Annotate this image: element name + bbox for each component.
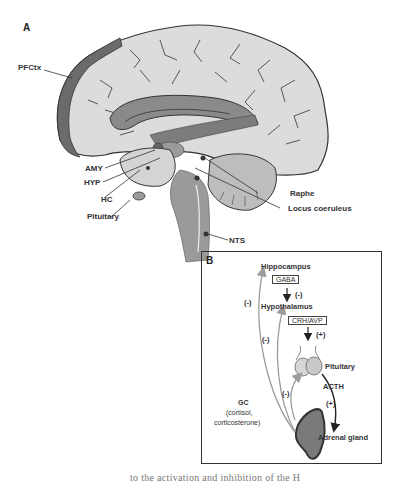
node-pituitary: Pituitary bbox=[325, 362, 355, 371]
label-gc-corticosterone: corticosterone) bbox=[214, 419, 260, 426]
node-crh-avp: CRH/AVP bbox=[288, 316, 327, 325]
sign-feedback-pituitary: (-) bbox=[282, 389, 290, 398]
sign-feedback-hippocampus: (-) bbox=[244, 298, 252, 307]
node-adrenal-gland: Adrenal gland bbox=[318, 433, 368, 442]
hpa-diagram bbox=[0, 0, 403, 483]
figure-caption-fragment: to the activation and inhibition of the … bbox=[130, 472, 300, 483]
sign-acth-excite: (+) bbox=[326, 399, 335, 408]
label-acth: ACTH bbox=[323, 382, 344, 391]
pituitary-gland bbox=[295, 346, 322, 376]
node-gaba: GABA bbox=[272, 275, 299, 284]
sign-feedback-hypothalamus: (-) bbox=[262, 335, 270, 344]
sign-gaba-inhibit: (-) bbox=[295, 290, 303, 299]
label-gc: GC bbox=[238, 399, 249, 406]
sign-crh-excite: (+) bbox=[316, 330, 325, 339]
label-gc-cortisol: (cortisol, bbox=[226, 409, 252, 416]
node-hippocampus: Hippocampus bbox=[261, 262, 311, 271]
node-hypothalamus: Hypothalamus bbox=[261, 302, 313, 311]
